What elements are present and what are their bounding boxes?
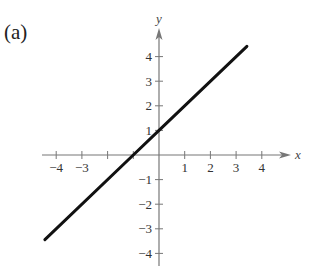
y-tick-label: 3 — [146, 74, 153, 89]
x-tick-label: 2 — [207, 160, 214, 175]
y-tick-label: −4 — [138, 246, 152, 261]
x-tick-label: −4 — [49, 160, 63, 175]
y-tick-label: 1 — [146, 123, 153, 138]
axes: xy — [42, 11, 301, 266]
line-chart: xy −4−31234−4−3−2−11234 — [0, 0, 311, 278]
x-tick-label: 4 — [259, 160, 266, 175]
y-tick-label: −3 — [138, 221, 152, 236]
y-tick-label: 4 — [146, 49, 153, 64]
y-tick-label: 2 — [146, 98, 153, 113]
y-tick-label: −1 — [138, 172, 152, 187]
x-tick-label: −3 — [75, 160, 89, 175]
x-tick-label: 3 — [233, 160, 240, 175]
x-tick-label: 1 — [181, 160, 188, 175]
y-tick-label: −2 — [138, 197, 152, 212]
y-axis-label: y — [154, 11, 162, 26]
x-axis-label: x — [294, 147, 301, 162]
